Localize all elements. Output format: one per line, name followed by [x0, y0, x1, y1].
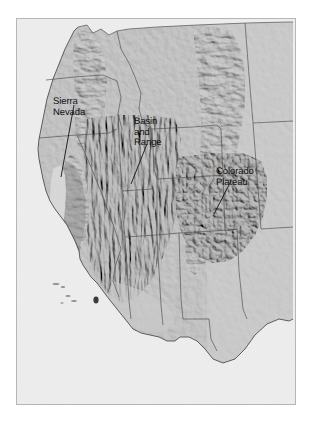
map-label-sierra-nevada: Sierra Nevada: [53, 97, 85, 118]
figure-container: Sierra Nevada Basin and Range Colorado P…: [0, 0, 312, 423]
salton-sea-marker: [93, 297, 98, 304]
map-label-colorado-plateau: Colorado Plateau: [216, 167, 254, 188]
map-frame: Sierra Nevada Basin and Range Colorado P…: [16, 18, 296, 405]
relief-map-graphic: [17, 19, 295, 404]
map-label-basin-and-range: Basin and Range: [134, 117, 162, 149]
